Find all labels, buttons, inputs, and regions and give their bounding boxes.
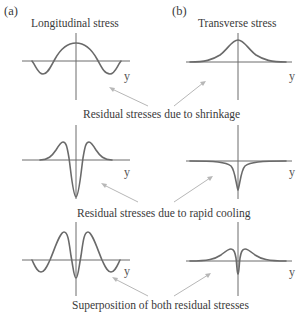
axis-label-y: y xyxy=(289,166,295,179)
axis-label-y: y xyxy=(124,70,130,83)
plot-b-superposition xyxy=(186,222,292,296)
plot-a-cooling xyxy=(22,125,130,199)
caption-shrinkage: Residual stresses due to shrinkage xyxy=(83,108,240,121)
stress-diagram xyxy=(0,0,308,318)
axis-label-y: y xyxy=(124,166,130,179)
caption-rapid-cooling: Residual stresses due to rapid cooling xyxy=(77,207,250,220)
caption-superposition: Superposition of both residual stresses xyxy=(72,299,249,312)
axis-label-y: y xyxy=(289,70,295,83)
plot-b-shrinkage xyxy=(186,33,292,100)
axis-label-y: y xyxy=(124,265,130,278)
axis-label-y: y xyxy=(289,266,295,279)
plot-a-superposition xyxy=(22,222,130,296)
plot-b-cooling xyxy=(186,125,292,199)
